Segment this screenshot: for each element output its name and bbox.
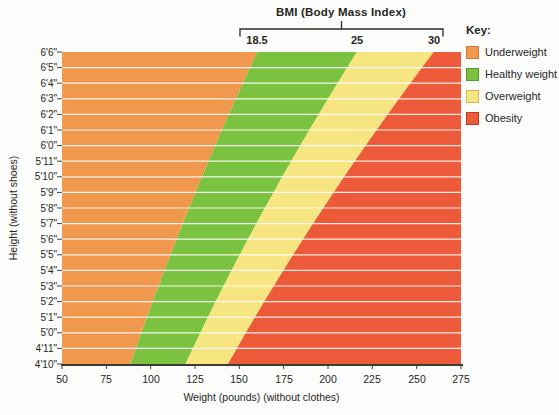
chart-title: BMI (Body Mass Index) (241, 6, 441, 18)
weight-tick-label: 150 (230, 373, 248, 385)
weight-tick-label: 125 (186, 373, 204, 385)
legend-item: Underweight (466, 41, 557, 63)
height-tick-label: 5'2" (20, 296, 57, 307)
legend-swatch-overweight (466, 90, 479, 103)
bmi-figure: BMI (Body Mass Index) 18.52530 6'6"6'5"6… (0, 0, 559, 415)
height-tick-label: 5'4" (20, 265, 57, 276)
legend-item: Obesity (466, 107, 557, 129)
height-tick-label: 6'6" (20, 47, 57, 58)
height-tick-label: 5'5" (20, 249, 57, 260)
weight-tick-label: 100 (142, 373, 160, 385)
height-tick-label: 6'2" (20, 109, 57, 120)
legend-item-label: Healthy weight (485, 68, 557, 80)
bmi-threshold-label: 25 (351, 34, 363, 46)
legend-items: UnderweightHealthy weightOverweightObesi… (466, 41, 557, 129)
height-tick-label: 4'11" (20, 343, 57, 354)
height-tick-label: 5'11" (20, 156, 57, 167)
legend-title: Key: (466, 24, 557, 36)
height-tick-label: 5'7" (20, 218, 57, 229)
legend-swatch-healthy-weight (466, 68, 479, 81)
legend-item-label: Overweight (485, 90, 541, 102)
legend-swatch-obesity (466, 112, 479, 125)
height-tick-label: 4'10" (20, 359, 57, 370)
y-axis-title: Height (without shoes) (7, 156, 19, 260)
legend: Key: UnderweightHealthy weightOverweight… (466, 24, 557, 129)
legend-swatch-underweight (466, 46, 479, 59)
height-tick-label: 5'10" (20, 171, 57, 182)
weight-tick-label: 275 (452, 373, 470, 385)
height-tick-label: 5'6" (20, 234, 57, 245)
height-tick-label: 6'1" (20, 125, 57, 136)
height-tick-label: 5'1" (20, 312, 57, 323)
legend-item: Healthy weight (466, 63, 557, 85)
legend-item-label: Obesity (485, 112, 522, 124)
weight-tick-label: 50 (56, 373, 68, 385)
height-tick-label: 6'4" (20, 78, 57, 89)
height-tick-label: 5'8" (20, 203, 57, 214)
weight-tick-label: 200 (319, 373, 337, 385)
bmi-threshold-label: 30 (428, 34, 440, 46)
weight-tick-label: 175 (275, 373, 293, 385)
height-tick-label: 5'3" (20, 281, 57, 292)
height-tick-label: 6'3" (20, 93, 57, 104)
legend-item: Overweight (466, 85, 557, 107)
height-tick-label: 6'0" (20, 140, 57, 151)
weight-tick-label: 250 (408, 373, 426, 385)
height-tick-label: 5'0" (20, 327, 57, 338)
weight-tick-label: 75 (100, 373, 112, 385)
weight-tick-label: 225 (363, 373, 381, 385)
x-axis-title: Weight (pounds) (without clothes) (62, 391, 461, 403)
bmi-bracket (240, 21, 443, 37)
height-tick-label: 6'5" (20, 62, 57, 73)
bmi-threshold-label: 18.5 (246, 34, 267, 46)
height-tick-label: 5'9" (20, 187, 57, 198)
legend-item-label: Underweight (485, 46, 547, 58)
